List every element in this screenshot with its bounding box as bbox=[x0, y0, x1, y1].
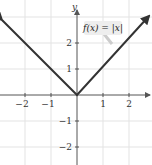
x-tick-label: 1 bbox=[100, 99, 106, 109]
x-tick-label: 2 bbox=[126, 99, 132, 109]
y-tick-label: −2 bbox=[59, 142, 72, 152]
x-tick-label: −2 bbox=[15, 99, 28, 109]
x-tick-label: −1 bbox=[41, 99, 54, 109]
y-tick-label: 1 bbox=[66, 64, 72, 74]
absolute-value-graph: −2 −1 1 2 2 1 −1 −2 y f(x) = |x| bbox=[0, 0, 152, 165]
y-tick-label: −1 bbox=[59, 116, 72, 126]
grid bbox=[0, 0, 152, 165]
function-label: f(x) = |x| bbox=[82, 23, 123, 34]
y-axis-label: y bbox=[71, 2, 78, 12]
function-graph-line bbox=[2, 16, 149, 95]
y-tick-label: 2 bbox=[66, 38, 72, 48]
